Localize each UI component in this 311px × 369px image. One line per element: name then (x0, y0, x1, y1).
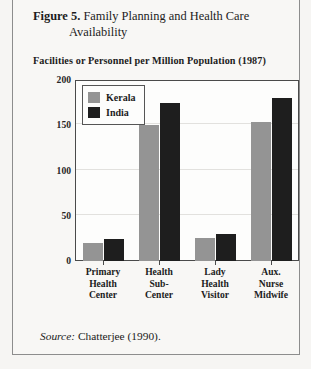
legend-item-kerala: Kerala (88, 90, 135, 105)
bar-group (243, 80, 299, 261)
x-tick-label: Aux.NurseMidwife (240, 266, 302, 301)
x-tick-label-line: Visitor (184, 289, 246, 301)
x-tick-label: HealthSub-Center (128, 266, 190, 301)
source-text: Chatterjee (1990). (78, 330, 161, 342)
x-tick-label-line: Midwife (240, 289, 302, 301)
source-note: Source: Chatterjee (1990). (40, 330, 161, 342)
bar-kerala (83, 243, 103, 261)
source-label: Source: (40, 330, 75, 342)
y-tick-label-0: 0 (37, 255, 71, 266)
x-axis-tick-labels: PrimaryHealthCenterHealthSub-CenterLadyH… (53, 266, 311, 310)
bar-kerala (139, 125, 159, 261)
y-tick-label-100: 100 (37, 165, 71, 176)
bar-kerala (195, 238, 215, 261)
legend-label-india: India (106, 107, 129, 118)
x-tick-mark (215, 261, 216, 265)
legend-item-india: India (88, 105, 135, 120)
chart-legend: KeralaIndia (82, 85, 145, 125)
y-axis-tick-labels: 050100150200 (35, 72, 71, 268)
x-tick-mark (103, 261, 104, 265)
bar-india (216, 234, 236, 261)
legend-swatch-kerala (88, 92, 100, 103)
figure-title-line1: Family Planning and Health Care (83, 9, 249, 23)
x-tick-label-line: Health (72, 278, 134, 290)
y-tick-label-50: 50 (37, 210, 71, 221)
bar-india (272, 98, 292, 261)
x-tick-mark (271, 261, 272, 265)
x-tick-label-line: Sub- (128, 278, 190, 290)
figure-title: Figure 5. Family Planning and Health Car… (33, 8, 285, 40)
bar-india (104, 239, 124, 261)
y-tick-label-200: 200 (37, 74, 71, 85)
bar-india (160, 103, 180, 261)
y-tick-label-150: 150 (37, 119, 71, 130)
figure-border: Figure 5. Family Planning and Health Car… (12, 0, 300, 355)
bar-group (187, 80, 243, 261)
x-tick-label: PrimaryHealthCenter (72, 266, 134, 301)
x-tick-label-line: Aux. (240, 266, 302, 278)
x-tick-label-line: Primary (72, 266, 134, 278)
x-tick-label-line: Health (128, 266, 190, 278)
chart-subtitle: Facilities or Personnel per Million Popu… (33, 55, 295, 66)
x-tick-label-line: Nurse (240, 278, 302, 290)
figure-number: Figure 5. (33, 9, 80, 23)
x-tick-label: LadyHealthVisitor (184, 266, 246, 301)
x-tick-label-line: Center (72, 289, 134, 301)
legend-swatch-india (88, 107, 100, 118)
x-tick-label-line: Center (128, 289, 190, 301)
x-tick-label-line: Health (184, 278, 246, 290)
x-tick-label-line: Lady (184, 266, 246, 278)
figure-title-line2: Availability (33, 24, 285, 40)
legend-label-kerala: Kerala (106, 92, 135, 103)
bar-kerala (251, 122, 271, 261)
x-tick-mark (159, 261, 160, 265)
